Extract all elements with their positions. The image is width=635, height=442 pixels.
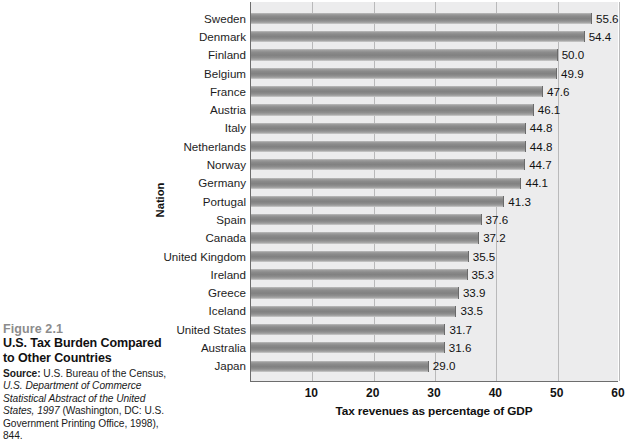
category-label: Austria bbox=[210, 102, 246, 117]
source-line-2: U.S. Department of Commerce bbox=[3, 380, 178, 392]
bar-row: Greece33.9 bbox=[251, 284, 619, 302]
bar bbox=[251, 306, 456, 317]
bar-row: Italy44.8 bbox=[251, 119, 619, 137]
bar-value-label: 44.8 bbox=[530, 139, 553, 154]
bar bbox=[251, 324, 445, 335]
gridline-60 bbox=[619, 2, 620, 381]
bar-value-label: 29.0 bbox=[433, 358, 456, 373]
bar-row: Belgium49.9 bbox=[251, 64, 619, 82]
source-line-1: Source: U.S. Bureau of the Census, bbox=[3, 368, 178, 380]
bar-row: United Kingdom35.5 bbox=[251, 247, 619, 265]
source-line-4: States, 1997 (Washington, DC: U.S. bbox=[3, 405, 178, 417]
bar-value-label: 41.3 bbox=[508, 194, 531, 209]
category-label: Canada bbox=[205, 230, 246, 245]
bar-value-label: 50.0 bbox=[562, 47, 585, 62]
bar-row: Finland50.0 bbox=[251, 46, 619, 64]
bar-row: Germany44.1 bbox=[251, 174, 619, 192]
figure-source-note: Source: U.S. Bureau of the Census, U.S. … bbox=[3, 368, 178, 442]
bar-row: Norway44.7 bbox=[251, 156, 619, 174]
bar bbox=[251, 269, 468, 280]
figure-number: Figure 2.1 bbox=[3, 322, 178, 336]
x-tick-label-10: 10 bbox=[305, 386, 318, 400]
category-label: Germany bbox=[198, 175, 246, 190]
bar bbox=[251, 214, 482, 225]
bar bbox=[251, 196, 504, 207]
category-label: Finland bbox=[208, 47, 246, 62]
bar-row: Ireland35.3 bbox=[251, 266, 619, 284]
category-label: France bbox=[210, 84, 246, 99]
bar-value-label: 47.6 bbox=[547, 84, 570, 99]
figure-title: U.S. Tax Burden Compared to Other Countr… bbox=[3, 336, 178, 365]
bar-value-label: 44.1 bbox=[525, 175, 548, 190]
bar bbox=[251, 251, 469, 262]
bar bbox=[251, 104, 534, 115]
bar-value-label: 37.2 bbox=[483, 230, 506, 245]
bar-value-label: 54.4 bbox=[589, 29, 612, 44]
category-label: Belgium bbox=[204, 66, 246, 81]
category-label: Portugal bbox=[203, 194, 246, 209]
bar bbox=[251, 159, 525, 170]
figure-caption-block: Figure 2.1 U.S. Tax Burden Compared to O… bbox=[3, 322, 178, 442]
category-label: United States bbox=[176, 322, 246, 337]
source-line-3: Statistical Abstract of the United bbox=[3, 393, 178, 405]
source-line-4-italic: States, 1997 bbox=[3, 405, 60, 416]
bar-row: Canada37.2 bbox=[251, 229, 619, 247]
figure-title-line-1: U.S. Tax Burden Compared bbox=[3, 336, 178, 351]
bar-row: Portugal41.3 bbox=[251, 193, 619, 211]
bar-row: France47.6 bbox=[251, 83, 619, 101]
y-axis-title: Nation bbox=[152, 170, 168, 230]
x-tick-label-40: 40 bbox=[489, 386, 502, 400]
bar-value-label: 44.8 bbox=[530, 120, 553, 135]
category-label: United Kingdom bbox=[164, 249, 247, 264]
bar-row: Sweden55.6 bbox=[251, 10, 619, 28]
category-label: Greece bbox=[208, 285, 246, 300]
bar-value-label: 55.6 bbox=[596, 11, 619, 26]
bar-value-label: 33.5 bbox=[460, 303, 483, 318]
x-tick-label-20: 20 bbox=[366, 386, 379, 400]
plot-area: Sweden55.6Denmark54.4Finland50.0Belgium4… bbox=[250, 2, 618, 382]
bar-value-label: 44.7 bbox=[529, 157, 552, 172]
x-tick-label-50: 50 bbox=[550, 386, 563, 400]
bar-value-label: 33.9 bbox=[463, 285, 486, 300]
figure-title-line-2: to Other Countries bbox=[3, 351, 178, 366]
source-line-4-rest: (Washington, DC: U.S. bbox=[60, 405, 164, 416]
category-label: Ireland bbox=[211, 267, 246, 282]
bar-row: Denmark54.4 bbox=[251, 28, 619, 46]
source-line-1-text: U.S. Bureau of the Census, bbox=[41, 368, 167, 379]
bar bbox=[251, 141, 526, 152]
bar bbox=[251, 287, 459, 298]
category-label: Sweden bbox=[204, 11, 246, 26]
bar-row: Iceland33.5 bbox=[251, 302, 619, 320]
category-label: Japan bbox=[214, 358, 246, 373]
bar-row: Netherlands44.8 bbox=[251, 138, 619, 156]
x-tick-label-60: 60 bbox=[611, 386, 624, 400]
category-label: Australia bbox=[201, 340, 246, 355]
source-label: Source: bbox=[3, 368, 41, 379]
bar bbox=[251, 86, 543, 97]
category-label: Norway bbox=[207, 157, 246, 172]
x-axis-tick-labels: 102030405060 bbox=[250, 386, 618, 402]
category-label: Italy bbox=[225, 120, 246, 135]
bar-row: United States31.7 bbox=[251, 321, 619, 339]
category-label: Spain bbox=[216, 212, 246, 227]
bar bbox=[251, 49, 558, 60]
bar-value-label: 35.3 bbox=[472, 267, 495, 282]
y-axis-title-text: Nation bbox=[154, 183, 166, 218]
bar-row: Japan29.0 bbox=[251, 357, 619, 375]
bar bbox=[251, 342, 445, 353]
source-line-5: Government Printing Office, 1998), 844. bbox=[3, 418, 178, 442]
x-tick-label-30: 30 bbox=[427, 386, 440, 400]
bar bbox=[251, 31, 585, 42]
bar bbox=[251, 232, 479, 243]
bar bbox=[251, 178, 521, 189]
category-label: Netherlands bbox=[183, 139, 246, 154]
bar bbox=[251, 68, 557, 79]
bar-row: Australia31.6 bbox=[251, 339, 619, 357]
bar bbox=[251, 361, 429, 372]
x-axis-title: Tax revenues as percentage of GDP bbox=[250, 404, 618, 418]
bar-value-label: 49.9 bbox=[561, 66, 584, 81]
bar-row: Austria46.1 bbox=[251, 101, 619, 119]
bar bbox=[251, 13, 592, 24]
bar-value-label: 31.6 bbox=[449, 340, 472, 355]
bar bbox=[251, 123, 526, 134]
